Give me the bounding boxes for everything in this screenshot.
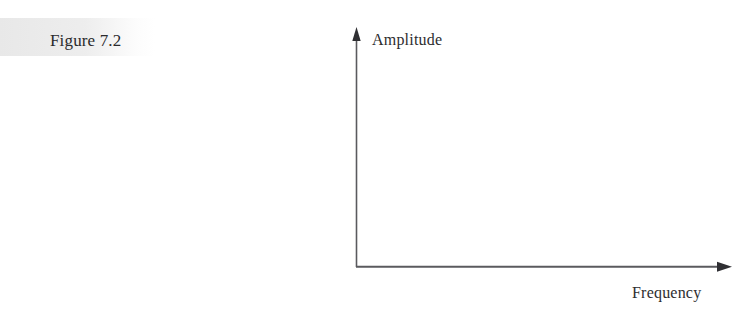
- arrow-up-icon: [352, 27, 360, 41]
- arrow-right-icon: [717, 262, 732, 272]
- x-axis-label: Frequency: [632, 283, 701, 302]
- figure-canvas: Figure 7.2 Amplitude Frequency: [0, 0, 753, 315]
- y-axis-label: Amplitude: [372, 30, 442, 49]
